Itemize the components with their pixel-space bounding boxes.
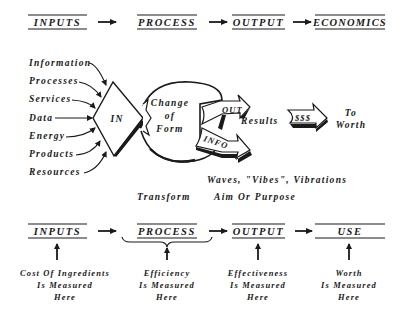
bottom-step-inputs-label: INPUTS — [33, 226, 82, 237]
change-line-1: Change — [151, 98, 189, 108]
measure-process-line-3: Here — [155, 292, 178, 302]
to-label: To — [345, 108, 357, 118]
bottom-step-use: USE — [315, 224, 385, 238]
arrow-products — [76, 141, 100, 155]
measure-output-line-3: Here — [246, 292, 269, 302]
arrow-information — [89, 63, 106, 85]
input-processes: Processes — [29, 76, 79, 86]
bottom-step-process-label: PROCESS — [138, 226, 196, 237]
measure-output-line-1: Effectiveness — [227, 268, 288, 278]
measure-use-line-2: Is Measured — [320, 280, 377, 290]
input-energy: Energy — [28, 131, 65, 141]
measure-process: Efficiency Is Measured Here — [138, 268, 195, 302]
measure-use: Worth Is Measured Here — [320, 268, 377, 302]
top-step-output-label: OUTPUT — [233, 17, 285, 28]
out-label: OUT — [222, 105, 243, 115]
measure-inputs-line-3: Here — [53, 292, 76, 302]
input-resources: Resources — [28, 167, 81, 177]
change-of-form-circle — [141, 82, 222, 162]
transform-label: Transform — [137, 192, 191, 202]
measure-output: Effectiveness Is Measured Here — [227, 268, 288, 302]
arrow-processes — [79, 82, 101, 97]
results-label: Results — [240, 116, 279, 126]
money-label: $$$ — [294, 113, 311, 123]
worth-label: Worth — [336, 120, 367, 130]
input-services: Services — [29, 94, 72, 104]
bottom-step-use-label: USE — [337, 226, 362, 237]
top-step-economics-label: ECONOMICS — [312, 17, 387, 28]
change-line-3: Form — [155, 124, 183, 134]
input-products: Products — [29, 149, 74, 159]
measure-use-line-1: Worth — [335, 268, 362, 278]
arrow-resources — [84, 152, 106, 173]
in-label: IN — [109, 114, 123, 124]
bottom-flow: INPUTS PROCESS OUTPUT USE Cost Of Ingred — [20, 224, 385, 302]
measure-process-line-2: Is Measured — [138, 280, 195, 290]
bottom-step-output-label: OUTPUT — [233, 226, 285, 237]
measure-inputs-line-1: Cost Of Ingredients — [20, 268, 110, 278]
change-line-2: of — [165, 111, 176, 121]
measure-output-line-2: Is Measured — [229, 280, 286, 290]
measure-inputs-line-2: Is Measured — [36, 280, 93, 290]
top-step-process: PROCESS — [137, 15, 197, 29]
economics-process-diagram: INPUTS PROCESS OUTPUT ECONOMICS Informat… — [0, 0, 405, 321]
waves-label: Waves, "Vibes", Vibrations — [207, 175, 347, 185]
input-information: Information — [28, 58, 91, 68]
top-step-process-label: PROCESS — [138, 17, 196, 28]
top-step-inputs: INPUTS — [28, 15, 87, 29]
measure-inputs: Cost Of Ingredients Is Measured Here — [20, 268, 110, 302]
top-step-output: OUTPUT — [232, 15, 285, 29]
arrow-services — [72, 100, 95, 108]
aim-label: Aim Or Purpose — [213, 192, 296, 202]
top-flow: INPUTS PROCESS OUTPUT ECONOMICS — [28, 15, 387, 29]
input-data: Data — [28, 113, 53, 123]
measure-process-line-1: Efficiency — [143, 268, 191, 278]
bottom-step-process: PROCESS — [122, 224, 212, 247]
top-step-economics: ECONOMICS — [312, 15, 387, 29]
transform-diagram: IN Change of Form OUT INFO Results $$$ T… — [93, 82, 366, 202]
arrow-energy — [66, 128, 95, 137]
bottom-step-inputs: INPUTS — [28, 224, 87, 238]
top-step-inputs-label: INPUTS — [33, 17, 82, 28]
bottom-step-output: OUTPUT — [232, 224, 285, 238]
measure-use-line-3: Here — [337, 292, 360, 302]
